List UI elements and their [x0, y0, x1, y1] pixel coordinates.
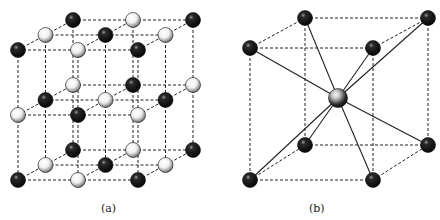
black-atom — [186, 13, 201, 28]
black-atom — [98, 158, 113, 173]
white-atom — [158, 158, 173, 173]
black-atom — [71, 108, 86, 123]
black-atom — [158, 93, 173, 108]
white-atom — [158, 28, 173, 43]
black-atom — [66, 143, 81, 158]
white-atom — [126, 143, 141, 158]
center-bond — [250, 98, 338, 180]
center-bond — [338, 98, 428, 145]
black-atom — [131, 173, 146, 188]
black-atom — [11, 43, 26, 58]
corner-atom — [421, 11, 436, 26]
white-atom — [66, 78, 81, 93]
white-atom — [126, 13, 141, 28]
panel-a-rock-salt-lattice — [11, 13, 201, 188]
center-bond — [250, 48, 338, 98]
white-atom — [98, 93, 113, 108]
corner-atom — [421, 138, 436, 153]
white-atom — [38, 158, 53, 173]
cell-edge — [250, 145, 305, 180]
black-atom — [186, 143, 201, 158]
corner-atom — [243, 41, 258, 56]
white-atom — [131, 108, 146, 123]
panel-a-caption: (a) — [101, 202, 116, 215]
white-atom — [71, 173, 86, 188]
black-atom — [131, 43, 146, 58]
black-atom — [66, 13, 81, 28]
center-bond — [338, 98, 373, 180]
panel-b-bcc-cell — [243, 11, 436, 188]
center-atom — [329, 89, 348, 108]
white-atom — [71, 43, 86, 58]
crystal-structures-figure — [0, 0, 440, 220]
white-atom — [11, 108, 26, 123]
cell-edge — [250, 18, 305, 48]
black-atom — [98, 28, 113, 43]
corner-atom — [366, 41, 381, 56]
white-atom — [38, 28, 53, 43]
corner-atom — [243, 173, 258, 188]
cell-edge — [373, 18, 428, 48]
black-atom — [38, 93, 53, 108]
white-atom — [186, 78, 201, 93]
corner-atom — [298, 11, 313, 26]
center-bond — [338, 18, 428, 98]
corner-atom — [298, 138, 313, 153]
cell-edge — [373, 145, 428, 180]
corner-atom — [366, 173, 381, 188]
black-atom — [11, 173, 26, 188]
black-atom — [126, 78, 141, 93]
panel-b-caption: (b) — [309, 202, 325, 215]
center-bond — [305, 18, 338, 98]
